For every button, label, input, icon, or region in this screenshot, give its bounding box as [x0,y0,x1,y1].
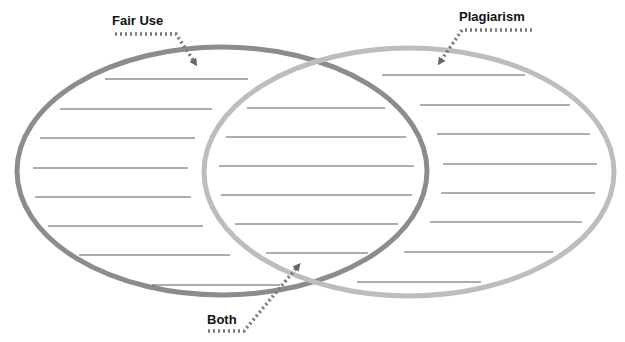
plagiarism-label: Plagiarism [459,9,525,24]
both-label: Both [207,312,237,327]
venn-diagram [0,0,625,342]
fair-use-label: Fair Use [112,13,163,28]
both-writing-lines [219,108,414,253]
plagiarism-circle [204,48,614,296]
fair-use-circle [17,47,427,295]
plagiarism-writing-lines [357,75,597,282]
